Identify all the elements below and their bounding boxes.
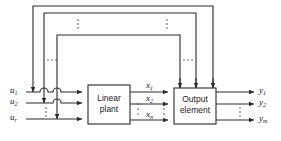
linear-plant-label-line2: plant xyxy=(100,104,119,114)
input-label-u2-sub: 2 xyxy=(15,101,18,107)
svg-text:xn: xn xyxy=(145,109,153,120)
output-element-label-line1: Output xyxy=(182,94,208,104)
input-vertical-ellipsis xyxy=(45,107,47,117)
output-element-block[interactable]: Output element xyxy=(174,88,216,124)
input-label-u1-sub: 1 xyxy=(15,90,18,96)
output-label-ym-sub: m xyxy=(263,118,268,124)
feedback-loop-outer xyxy=(33,6,213,92)
svg-text:ur: ur xyxy=(10,112,18,123)
control-system-block-diagram: Linear plant Output element xyxy=(0,0,281,141)
svg-text:y2: y2 xyxy=(258,97,266,108)
input-line-u2 xyxy=(26,99,82,103)
state-label-xn-sub: n xyxy=(150,114,153,120)
svg-text:y1: y1 xyxy=(258,85,266,96)
block-diagram-canvas: Linear plant Output element xyxy=(0,0,281,141)
state-label-x1-sub: 1 xyxy=(150,85,153,91)
input-line-u1 xyxy=(26,88,82,92)
svg-text:x2: x2 xyxy=(145,93,153,104)
top-left-horizontal-ellipsis xyxy=(47,59,57,61)
output-element-label-line2: element xyxy=(180,105,211,115)
svg-text:ym: ym xyxy=(258,113,268,124)
svg-text:u1: u1 xyxy=(10,85,18,96)
linear-plant-label-line1: Linear xyxy=(97,93,121,103)
state-right-vertical-ellipsis xyxy=(163,108,165,115)
output-vertical-ellipsis xyxy=(239,107,241,117)
state-left-vertical-ellipsis xyxy=(137,103,139,115)
input-signal-labels: u1 u2 ur xyxy=(10,85,18,123)
top-right-horizontal-ellipsis xyxy=(183,59,193,61)
output-label-y2-sub: 2 xyxy=(263,102,266,108)
feedback-arrows-into-output-element xyxy=(180,78,213,88)
output-label-y1-sub: 1 xyxy=(263,90,266,96)
output-signal-labels: y1 y2 ym xyxy=(258,85,268,124)
linear-plant-block[interactable]: Linear plant xyxy=(88,85,130,124)
svg-text:u2: u2 xyxy=(10,96,18,107)
state-label-x2-sub: 2 xyxy=(150,98,153,104)
input-label-ur-sub: r xyxy=(15,117,18,123)
top-right-vertical-ellipsis xyxy=(166,19,168,29)
state-signal-labels: x1 x2 xn xyxy=(145,80,153,120)
top-left-vertical-ellipsis xyxy=(77,19,79,29)
svg-text:x1: x1 xyxy=(145,80,153,91)
